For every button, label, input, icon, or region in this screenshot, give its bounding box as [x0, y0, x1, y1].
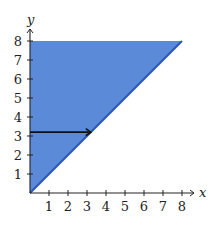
y-tick-label: 8: [14, 34, 22, 49]
y-tick-label: 7: [14, 53, 22, 68]
x-tick-label: 4: [102, 199, 110, 214]
y-tick-label: 2: [14, 148, 22, 163]
y-tick-label: 6: [14, 72, 22, 87]
x-tick-label: 5: [121, 199, 129, 214]
x-tick-label: 2: [64, 199, 72, 214]
x-tick-label: 1: [45, 199, 53, 214]
x-axis: 12345678 x: [30, 185, 207, 214]
x-tick-label: 7: [159, 199, 167, 214]
y-tick-label: 3: [14, 129, 22, 144]
diagram-canvas: 12345678 x 12345678 y: [0, 0, 219, 227]
y-axis-label: y: [26, 12, 35, 27]
x-tick-label: 8: [178, 199, 186, 214]
y-tick-label: 5: [14, 91, 22, 106]
x-tick-label: 6: [140, 199, 148, 214]
y-tick-label: 1: [14, 167, 22, 182]
x-axis-label: x: [199, 185, 207, 200]
x-tick-label: 3: [83, 199, 91, 214]
y-tick-label: 4: [14, 110, 22, 125]
